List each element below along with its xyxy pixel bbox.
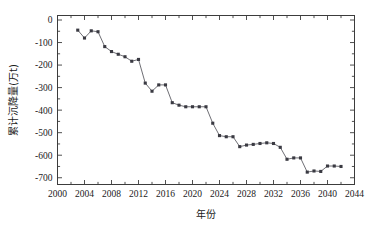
y-axis-tick-labels: 0-100-200-300-400-500-600-700 (35, 15, 53, 183)
x-axis-title: 年份 (196, 208, 216, 220)
data-point-marker (339, 165, 342, 168)
data-point-marker (103, 45, 106, 48)
data-point-marker (76, 29, 79, 32)
y-axis-tick-label: -600 (35, 151, 53, 161)
x-axis-tick-label: 2020 (183, 189, 202, 199)
data-point-marker (177, 104, 180, 107)
series-markers-cumulative-subsidence (76, 29, 342, 174)
data-point-marker (204, 105, 207, 108)
y-axis-title: 累计沉降量(万t) (7, 64, 19, 136)
data-point-marker (130, 60, 133, 63)
data-point-marker (171, 101, 174, 104)
data-point-marker (306, 171, 309, 174)
data-point-marker (225, 135, 228, 138)
data-point-marker (184, 105, 187, 108)
data-point-marker (285, 158, 288, 161)
y-axis-tick-label: 0 (48, 15, 53, 25)
data-point-marker (198, 105, 201, 108)
y-axis-tick-label: -700 (35, 173, 53, 183)
x-axis-tick-label: 2032 (264, 189, 283, 199)
data-point-marker (299, 156, 302, 159)
data-point-marker (211, 122, 214, 125)
data-point-marker (326, 164, 329, 167)
data-point-marker (123, 55, 126, 58)
x-axis-tick-label: 2036 (291, 189, 310, 199)
data-point-marker (312, 169, 315, 172)
cumulative-subsidence-line-chart: 2000200420082012201620202024202820322036… (0, 0, 380, 229)
data-point-marker (231, 135, 234, 138)
x-axis-tick-label: 2016 (156, 189, 175, 199)
data-point-marker (238, 145, 241, 148)
data-point-marker (252, 143, 255, 146)
data-point-marker (279, 146, 282, 149)
y-axis-major-ticks (58, 20, 355, 178)
y-axis-tick-label: -100 (35, 38, 53, 48)
data-point-marker (110, 50, 113, 53)
data-point-marker (137, 58, 140, 61)
y-axis-minor-ticks (58, 31, 355, 166)
series-line-cumulative-subsidence (78, 30, 341, 172)
data-point-marker (83, 36, 86, 39)
data-point-marker (265, 141, 268, 144)
data-point-marker (319, 170, 322, 173)
chart-figure: 2000200420082012201620202024202820322036… (0, 0, 380, 229)
data-point-marker (191, 105, 194, 108)
data-point-marker (96, 30, 99, 33)
data-point-marker (258, 142, 261, 145)
y-axis-tick-label: -300 (35, 83, 53, 93)
data-point-marker (245, 144, 248, 147)
data-point-marker (218, 134, 221, 137)
x-axis-tick-label: 2004 (75, 189, 94, 199)
data-point-marker (333, 164, 336, 167)
data-series-group (76, 29, 342, 174)
data-point-marker (157, 83, 160, 86)
y-axis-tick-label: -400 (35, 106, 53, 116)
x-axis-tick-label: 2024 (210, 189, 229, 199)
x-axis-tick-label: 2028 (237, 189, 256, 199)
x-axis-tick-label: 2012 (129, 189, 148, 199)
data-point-marker (292, 156, 295, 159)
y-axis-tick-label: -200 (35, 60, 53, 70)
x-axis-tick-labels: 2000200420082012201620202024202820322036… (48, 189, 364, 199)
x-axis-tick-label: 2008 (102, 189, 121, 199)
data-point-marker (117, 53, 120, 56)
data-point-marker (164, 83, 167, 86)
data-point-marker (150, 90, 153, 93)
data-point-marker (272, 142, 275, 145)
data-point-marker (144, 82, 147, 85)
y-axis-tick-label: -500 (35, 128, 53, 138)
x-axis-tick-label: 2044 (345, 189, 364, 199)
x-axis-tick-label: 2040 (318, 189, 337, 199)
x-axis-tick-label: 2000 (48, 189, 67, 199)
data-point-marker (90, 29, 93, 32)
